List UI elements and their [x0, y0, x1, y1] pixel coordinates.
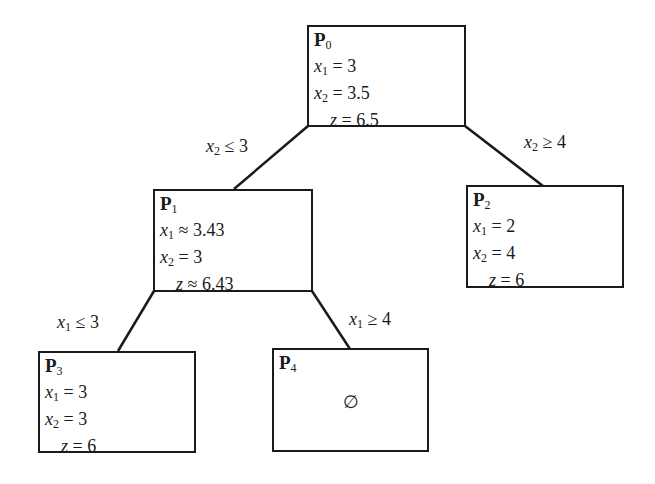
edge-label-p0-p1: x2 ≤ 3 [206, 136, 248, 159]
node-p1-title: P1 [160, 194, 311, 219]
node-p3-row-z: z = 6 [45, 435, 194, 457]
node-p0-row-z: z = 6.5 [314, 109, 464, 131]
node-p1: P1 x1 ≈ 3.43 x2 = 3 z ≈ 6.43 [153, 189, 313, 292]
node-p0-title: P0 [314, 30, 464, 55]
empty-set-symbol: ∅ [274, 392, 427, 412]
node-p2-row-x1: x1 = 2 [473, 215, 622, 242]
node-p3-row-x2: x2 = 3 [45, 408, 194, 435]
node-p4: P4 ∅ [272, 348, 429, 452]
edge-p1-p3 [118, 291, 154, 351]
node-p1-row-x1: x1 ≈ 3.43 [160, 219, 311, 246]
edge-label-p1-p3: x1 ≤ 3 [57, 312, 99, 335]
node-p0-row-x1: x1 = 3 [314, 55, 464, 82]
node-p3-title: P3 [45, 356, 194, 381]
node-p3: P3 x1 = 3 x2 = 3 z = 6 [38, 351, 196, 453]
node-p3-row-x1: x1 = 3 [45, 381, 194, 408]
node-p2-row-x2: x2 = 4 [473, 242, 622, 269]
node-p0-row-x2: x2 = 3.5 [314, 82, 464, 109]
node-p2-row-z: z = 6 [473, 269, 622, 291]
node-p1-row-z: z ≈ 6.43 [160, 273, 311, 295]
node-p2-title: P2 [473, 190, 622, 215]
edge-label-p1-p4: x1 ≥ 4 [349, 309, 391, 332]
node-p2: P2 x1 = 2 x2 = 4 z = 6 [466, 185, 624, 288]
edge-label-p0-p2: x2 ≥ 4 [524, 132, 566, 155]
node-p4-title: P4 [279, 353, 427, 378]
edge-p1-p4 [312, 291, 350, 349]
node-p1-row-x2: x2 = 3 [160, 246, 311, 273]
node-p0: P0 x1 = 3 x2 = 3.5 z = 6.5 [307, 25, 466, 127]
